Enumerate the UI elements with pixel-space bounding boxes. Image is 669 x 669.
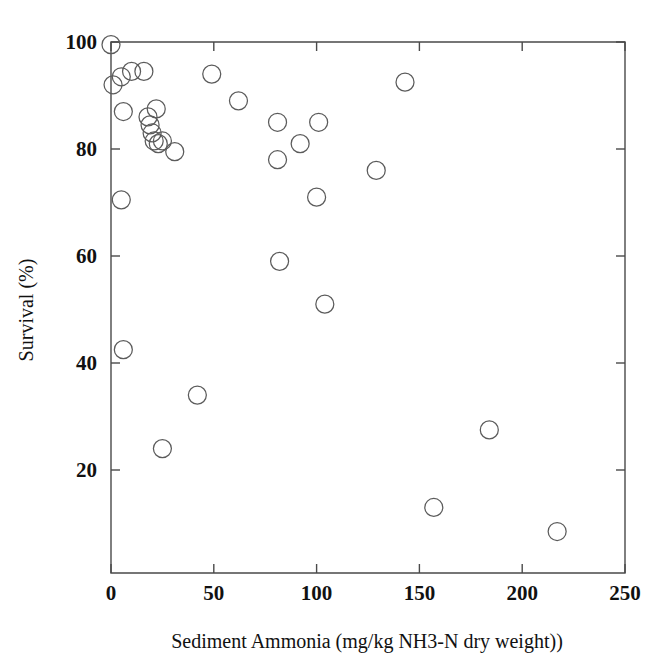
x-tick-label-150: 150 (404, 581, 436, 605)
data-markers-group (102, 36, 566, 541)
data-point (112, 191, 130, 209)
y-tick-label-60: 60 (76, 244, 97, 268)
data-point (188, 386, 206, 404)
axes-group (111, 42, 625, 573)
scatter-plot-figure: 05010015020025020406080100 Sediment Ammo… (0, 0, 669, 669)
data-point (153, 440, 171, 458)
data-point (203, 65, 221, 83)
plot-canvas: 05010015020025020406080100 Sediment Ammo… (0, 0, 669, 669)
data-point (425, 498, 443, 516)
data-point (308, 188, 326, 206)
y-tick-label-100: 100 (66, 30, 98, 54)
plot-frame (111, 42, 625, 573)
y-axis-title: Survival (%) (15, 259, 38, 362)
x-tick-label-200: 200 (506, 581, 538, 605)
data-point (229, 92, 247, 110)
data-point (269, 113, 287, 131)
x-tick-label-250: 250 (609, 581, 641, 605)
data-point (396, 73, 414, 91)
data-point (316, 295, 334, 313)
data-point (114, 103, 132, 121)
x-tick-label-0: 0 (106, 581, 117, 605)
x-axis-title: Sediment Ammonia (mg/kg NH3-N dry weight… (171, 630, 563, 653)
data-point (480, 421, 498, 439)
data-point (269, 151, 287, 169)
data-point (367, 161, 385, 179)
x-tick-label-100: 100 (301, 581, 333, 605)
data-point (310, 113, 328, 131)
ticks-group (111, 42, 625, 573)
y-tick-label-20: 20 (76, 458, 97, 482)
data-point (114, 341, 132, 359)
data-point (548, 523, 566, 541)
x-tick-label-50: 50 (203, 581, 224, 605)
data-point (166, 143, 184, 161)
data-point (271, 252, 289, 270)
data-point (135, 62, 153, 80)
y-tick-label-80: 80 (76, 137, 97, 161)
data-point (291, 135, 309, 153)
y-tick-label-40: 40 (76, 351, 97, 375)
